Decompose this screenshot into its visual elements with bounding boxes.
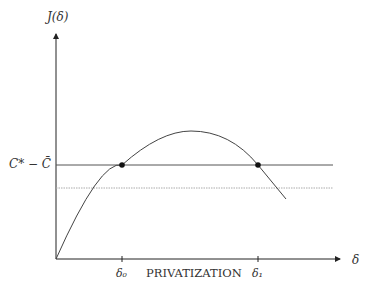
j-curve <box>56 131 286 259</box>
diagram-canvas <box>0 0 375 289</box>
intersection-point-delta0 <box>119 162 125 168</box>
x-axis-label: δ <box>352 253 359 267</box>
threshold-label: C* − C̄ <box>9 157 51 171</box>
intersection-point-delta1 <box>255 162 261 168</box>
tick-label-delta1: δ₁ <box>252 267 263 280</box>
y-axis-label: J(δ) <box>47 10 68 24</box>
privatization-label: PRIVATIZATION <box>146 266 242 280</box>
tick-label-delta0: δ₀ <box>116 267 127 280</box>
